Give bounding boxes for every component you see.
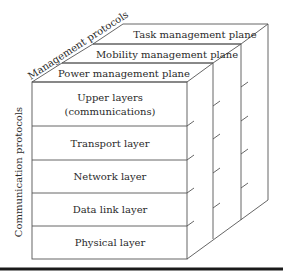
layer-network-label: Network layer (74, 171, 147, 182)
layer-datalink-label: Data link layer (73, 204, 148, 215)
communication-axis-label: Communication protocols (13, 107, 24, 237)
power-plane-label: Power management plane (58, 68, 190, 79)
layer-physical-label: Physical layer (75, 237, 146, 248)
layer-transport-label: Transport layer (71, 138, 150, 149)
mobility-plane-label: Mobility management plane (96, 49, 238, 60)
layer-upper-label-1: Upper layers (77, 92, 143, 103)
communication-layers: Upper layers (communications) Transport … (32, 82, 194, 259)
protocol-stack-diagram: Task management plane Mobility managemen… (0, 0, 283, 275)
task-plane-label: Task management plane (133, 29, 256, 40)
layer-upper-label-2: (communications) (65, 106, 156, 117)
